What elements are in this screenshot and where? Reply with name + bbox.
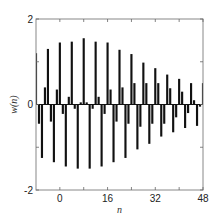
stem-bar-chart: 0163248 20-2 n w(n): [0, 0, 218, 221]
bar: [196, 105, 198, 126]
bar: [145, 83, 147, 104]
bar: [175, 105, 177, 118]
bar: [127, 105, 129, 124]
bar: [56, 90, 58, 105]
bar: [59, 43, 61, 105]
bar: [109, 90, 111, 105]
bar: [124, 105, 126, 158]
bar: [181, 92, 183, 105]
bar: [160, 105, 162, 137]
bar: [163, 105, 165, 124]
y-tick-labels: 20-2: [24, 14, 33, 196]
bar: [44, 87, 46, 104]
y-tick-label: -2: [24, 185, 33, 196]
x-tick-labels: 0163248: [57, 193, 209, 204]
bar: [77, 105, 79, 169]
y-tick-label: 2: [27, 14, 33, 25]
bar: [136, 105, 138, 150]
bar: [74, 105, 76, 109]
bar: [62, 105, 64, 114]
bar: [118, 50, 120, 105]
bar: [169, 88, 171, 104]
bar: [83, 38, 85, 104]
bar: [50, 105, 52, 122]
bar: [68, 97, 70, 105]
bar: [71, 42, 73, 105]
bar: [121, 87, 123, 104]
bar: [172, 105, 174, 133]
bar: [148, 105, 150, 144]
bar: [157, 83, 159, 104]
bar: [178, 79, 180, 105]
x-axis-label: n: [117, 204, 122, 215]
bar: [154, 68, 156, 104]
x-tick-label: 16: [102, 193, 114, 204]
bar: [106, 43, 108, 105]
bar: [115, 105, 117, 122]
bar: [142, 63, 144, 105]
bar: [98, 97, 100, 105]
bar: [53, 105, 55, 163]
bar: [104, 105, 106, 114]
bar: [193, 100, 195, 104]
bar: [41, 105, 43, 158]
bar: [112, 105, 114, 163]
bar: [184, 105, 186, 129]
bar: [89, 105, 91, 169]
bar: [95, 42, 97, 105]
bar: [92, 105, 94, 109]
y-tick-label: 0: [27, 99, 33, 110]
y-axis-label: w(n): [8, 95, 20, 114]
bar: [47, 49, 49, 105]
bar: [38, 105, 40, 124]
x-tick-label: 0: [57, 193, 63, 204]
bar: [190, 83, 192, 104]
bar: [130, 54, 132, 104]
x-tick-label: 48: [197, 193, 209, 204]
bar-series: [36, 38, 203, 168]
x-tick-label: 32: [150, 193, 162, 204]
bar: [166, 75, 168, 105]
bar: [65, 105, 67, 167]
bar: [187, 105, 189, 114]
bar: [139, 105, 141, 127]
bar: [101, 105, 103, 167]
bar: [133, 83, 135, 104]
bar: [151, 105, 153, 124]
